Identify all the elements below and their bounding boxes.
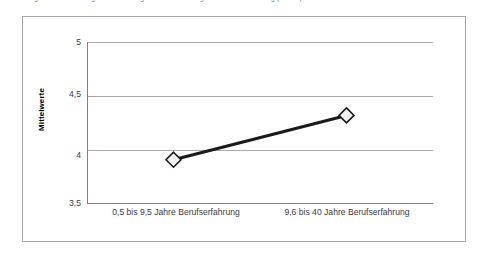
data-point-marker-1[interactable]	[339, 108, 354, 123]
chart-frame: Mittelwerte 5 4,5 4 3,5 0,5 bis 9,5 Jahr…	[22, 16, 466, 242]
y-tick-label-5: 5	[41, 38, 81, 47]
x-tick-label-1: 9,6 bis 40 Jahre Berufserfahrung	[257, 207, 437, 218]
x-tick-label-0: 0,5 bis 9,5 Jahre Berufserfahrung	[86, 207, 266, 218]
y-axis-tick-labels: 5 4,5 4 3,5	[37, 17, 81, 243]
data-series	[87, 42, 433, 204]
y-tick-label-3-5: 3,5	[41, 199, 81, 208]
x-axis-tick-labels: 0,5 bis 9,5 Jahre Berufserfahrung 9,6 bi…	[87, 207, 433, 227]
data-point-marker-0[interactable]	[166, 152, 181, 167]
y-tick-label-4: 4	[41, 151, 81, 160]
y-tick-label-4-5: 4,5	[41, 90, 81, 99]
series-line	[174, 115, 347, 159]
figure-caption: Abbildung 12: Einschätzung der Bedeutung…	[6, 0, 476, 4]
